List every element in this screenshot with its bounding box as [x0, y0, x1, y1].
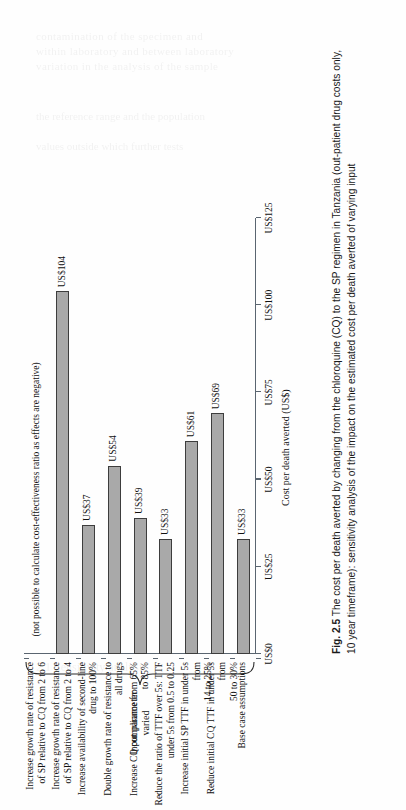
negative-effects-note: (not possible to calculate cost-effectiv… [31, 362, 41, 636]
value-tick-label: US$0 [264, 632, 274, 676]
value-tick [256, 217, 261, 218]
value-tick [256, 653, 261, 654]
bar [159, 539, 172, 654]
bar [108, 466, 121, 654]
figure-caption: Fig. 2.5 The cost per death averted by c… [330, 44, 359, 654]
bar-value-label: US$54 [108, 435, 118, 461]
value-axis-line [255, 218, 256, 654]
value-tick-label: US$125 [264, 196, 274, 240]
bar-value-label: US$69 [211, 383, 221, 409]
bar-value-label: US$33 [160, 509, 170, 535]
value-tick-label: US$50 [264, 458, 274, 502]
bar-value-label: US$104 [57, 256, 67, 287]
brace-label: Input parameter varied [128, 690, 152, 756]
bar [134, 518, 147, 654]
category-tick [256, 658, 261, 659]
figure-number: Fig. 2.5 [331, 619, 342, 654]
bar [237, 539, 250, 654]
bar [211, 413, 224, 654]
value-tick-label: US$100 [264, 283, 274, 327]
bar-chart-plot: US$33US$69US$61US$33US$39US$54US$37US$10… [24, 218, 256, 654]
bar [56, 291, 69, 654]
bar [185, 441, 198, 654]
x-axis-title: Cost per death averted (US$) [280, 389, 291, 506]
bar [82, 525, 95, 654]
value-tick [256, 304, 261, 305]
bar-value-label: US$37 [82, 495, 92, 521]
value-tick-label: US$75 [264, 370, 274, 414]
value-tick [256, 478, 261, 479]
value-tick [256, 391, 261, 392]
value-tick [256, 566, 261, 567]
bar-value-label: US$33 [237, 509, 247, 535]
bar-value-label: US$61 [186, 411, 196, 437]
bar-value-label: US$39 [134, 488, 144, 514]
figure-caption-text: The cost per death averted by changing f… [331, 50, 357, 654]
input-parameter-brace: Input parameter varied [24, 658, 256, 698]
value-tick-label: US$25 [264, 545, 274, 589]
